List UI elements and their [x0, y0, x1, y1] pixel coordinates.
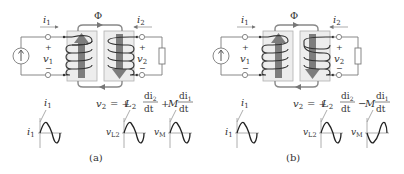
flux-label: Φ [94, 10, 102, 21]
svg-text:vM: vM [351, 127, 363, 139]
svg-text:i1: i1 [27, 126, 35, 139]
svg-text:v2: v2 [96, 98, 106, 111]
waveform-vM: vM [154, 110, 192, 148]
i2-label: i2 [137, 14, 145, 27]
figure-b: i1 + v1 − Φ [213, 10, 390, 163]
terminal-2-bottom [139, 72, 144, 77]
flux-label: Φ [290, 10, 298, 21]
flux-loop-bottom [275, 81, 318, 87]
svg-text:dt: dt [144, 104, 154, 114]
waveform-vL2: vL2 [303, 110, 343, 148]
terminal-1-bottom [242, 72, 247, 77]
terminal-2-top [336, 34, 341, 39]
svg-text:v2: v2 [293, 98, 303, 111]
svg-text:dt: dt [376, 104, 386, 114]
terminal-1-top [242, 34, 247, 39]
load-resistor-icon [355, 48, 361, 64]
caption-a: (a) [89, 152, 103, 163]
terminal-2-top [139, 34, 144, 39]
v1-plus: + [242, 43, 249, 52]
svg-text:L2: L2 [124, 98, 136, 111]
svg-text:vM: vM [154, 127, 166, 139]
v1-minus: − [45, 64, 52, 73]
equation-a: v2 = + L2 di2 dt + M di1 dt [96, 91, 193, 114]
svg-text:M: M [167, 98, 179, 109]
current-source-icon [13, 48, 29, 64]
waveform-vL2: vL2 [106, 110, 146, 148]
terminal-2-bottom [336, 72, 341, 77]
svg-text:i1: i1 [225, 126, 233, 139]
v2-plus: + [336, 43, 343, 52]
waveform-vM-inverted: vM [351, 110, 389, 148]
svg-text:di2: di2 [144, 91, 157, 102]
i1-label: i1 [241, 14, 249, 27]
terminal-1-top [45, 34, 50, 39]
v2-minus: − [336, 64, 343, 73]
v2-plus: + [139, 43, 146, 52]
svg-text:vL2: vL2 [303, 127, 317, 139]
svg-text:dt: dt [341, 104, 351, 114]
svg-text:dt: dt [179, 104, 189, 114]
v1-plus: + [45, 43, 52, 52]
equation-b: v2 = + L2 di2 dt − M di1 dt [293, 91, 390, 114]
svg-text:i1: i1 [44, 97, 52, 110]
v2-minus: − [139, 64, 146, 73]
coupled-coils-diagram: i1 + v1 − Φ [0, 0, 404, 174]
current-source-icon [213, 48, 229, 64]
i1-label: i1 [43, 14, 51, 27]
waveform-i1: i1 i1 [225, 97, 259, 148]
svg-text:vL2: vL2 [106, 127, 120, 139]
svg-text:di1: di1 [179, 91, 191, 102]
flux-loop-bottom [78, 81, 122, 87]
waveform-i1: i1 i1 [27, 97, 62, 148]
svg-text:di2: di2 [341, 91, 354, 102]
svg-text:L2: L2 [321, 98, 333, 111]
svg-text:i1: i1 [241, 97, 249, 110]
caption-b: (b) [286, 152, 300, 163]
svg-text:M: M [364, 98, 376, 109]
figure-a: i1 + v1 − Φ [13, 10, 193, 163]
svg-text:di1: di1 [376, 91, 388, 102]
terminal-1-bottom [45, 72, 50, 77]
v1-minus: − [242, 64, 249, 73]
load-resistor-icon [159, 48, 165, 64]
i2-label: i2 [333, 14, 341, 27]
